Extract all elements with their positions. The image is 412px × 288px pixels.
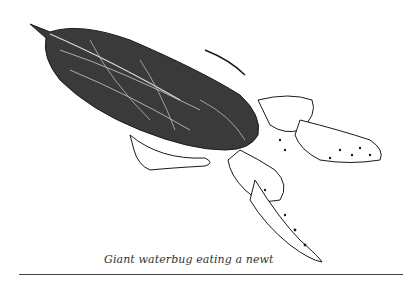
waterbug-newt-illustration xyxy=(0,0,412,288)
waterbug-drawing xyxy=(30,24,259,170)
figure-caption: Giant waterbug eating a newt xyxy=(104,253,274,266)
caption-rule-divider xyxy=(19,274,403,275)
